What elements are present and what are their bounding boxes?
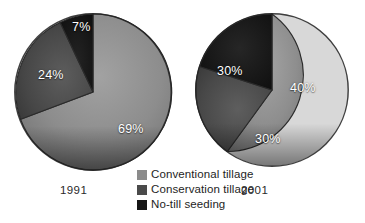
legend-item-conventional-tillage: Conventional tillage [137, 168, 254, 182]
legend-label-conservation-tillage: Conservation tillage [151, 184, 254, 196]
pie-chart-figure: 69% 24% 7% [0, 0, 365, 223]
chart-legend: Conventional tillage Conservation tillag… [137, 168, 254, 212]
pie-2001-svg [193, 6, 355, 174]
pie-1991-svg [12, 6, 174, 174]
legend-label-conventional-tillage: Conventional tillage [151, 169, 253, 181]
pie-chart-2001: 40% 30% 30% [193, 6, 355, 174]
pie-caption-1991: 1991 [60, 184, 87, 196]
legend-swatch-conservation-tillage [137, 185, 147, 195]
legend-item-conservation-tillage: Conservation tillage [137, 183, 254, 197]
legend-swatch-no-till-seeding [137, 200, 147, 210]
pie-chart-1991: 69% 24% 7% [12, 6, 174, 174]
legend-item-no-till-seeding: No-till seeding [137, 198, 254, 212]
legend-label-no-till-seeding: No-till seeding [151, 199, 225, 211]
legend-swatch-conventional-tillage [137, 170, 147, 180]
